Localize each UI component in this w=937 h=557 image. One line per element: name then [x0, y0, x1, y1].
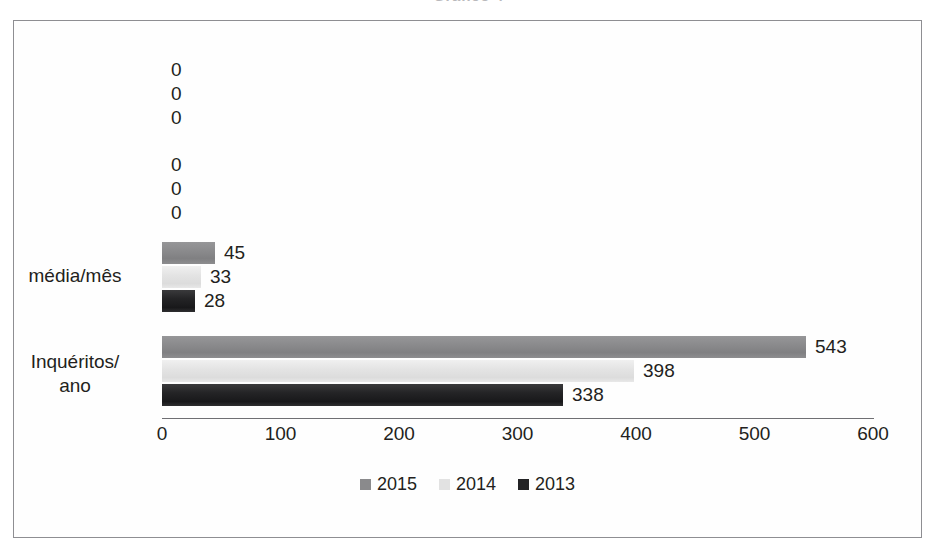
- bar-2013[interactable]: [162, 290, 195, 312]
- bar-2014[interactable]: [162, 360, 634, 382]
- category-label-inqueritos-ano: Inquéritos/ ano: [0, 350, 150, 398]
- bar-value-label: 338: [563, 384, 604, 406]
- legend-label: 2015: [377, 474, 417, 495]
- chart-legend: 2015 2014 2013: [14, 474, 921, 495]
- chart-frame: 0 0 0 0 0: [13, 20, 922, 538]
- legend-item-2014[interactable]: 2014: [439, 474, 496, 495]
- bar-value-label: 0: [162, 59, 182, 81]
- bar-value-label: 28: [195, 290, 225, 312]
- bar-value-label: 33: [201, 266, 231, 288]
- x-tick-label: 400: [620, 423, 652, 445]
- bar-2014[interactable]: [162, 266, 201, 288]
- x-tick-label: 600: [857, 423, 889, 445]
- plot-area: 0 0 0 0 0: [162, 41, 873, 418]
- bar-value-label: 0: [162, 83, 182, 105]
- x-tick-label: 0: [157, 423, 168, 445]
- bar-value-label: 45: [215, 242, 245, 264]
- x-tick-label: 200: [383, 423, 415, 445]
- bar-value-label: 398: [634, 360, 675, 382]
- x-tick-label: 100: [265, 423, 297, 445]
- legend-label: 2013: [535, 474, 575, 495]
- legend-item-2015[interactable]: 2015: [360, 474, 417, 495]
- bar-value-label: 0: [162, 107, 182, 129]
- legend-swatch-icon: [518, 479, 529, 490]
- bar-2015[interactable]: [162, 336, 806, 358]
- bar-value-label: 0: [162, 154, 182, 176]
- bar-2013[interactable]: [162, 384, 563, 406]
- legend-item-2013[interactable]: 2013: [518, 474, 575, 495]
- x-axis-tick-labels: 0 100 200 300 400 500 600: [162, 423, 874, 449]
- x-tick-label: 500: [739, 423, 771, 445]
- category-label-media-mes: média/mês: [0, 264, 150, 288]
- bar-value-label: 0: [162, 178, 182, 200]
- legend-label: 2014: [456, 474, 496, 495]
- bar-value-label: 543: [806, 336, 847, 358]
- x-tick-label: 300: [502, 423, 534, 445]
- legend-swatch-icon: [439, 479, 450, 490]
- x-axis-line: [162, 418, 874, 419]
- legend-swatch-icon: [360, 479, 371, 490]
- bar-value-label: 0: [162, 202, 182, 224]
- bar-2015[interactable]: [162, 242, 215, 264]
- chart-title: Gráfico 4: [0, 0, 937, 4]
